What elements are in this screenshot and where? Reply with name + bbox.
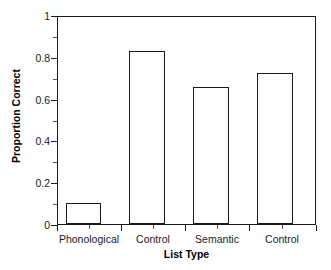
x-axis-tick-mark — [57, 225, 58, 231]
bar-control-2 — [257, 73, 293, 224]
x-axis-minor-tick-mark — [282, 225, 283, 229]
y-tick-label: 0.6 — [35, 95, 50, 106]
plot-area — [57, 16, 316, 225]
x-tick-label-control-2: Control — [232, 233, 331, 245]
x-axis-tick-mark — [121, 225, 122, 231]
y-axis-tick-labels: 1 0.8 0.6 0.4 0.2 0 — [0, 0, 50, 270]
x-axis-tick-mark — [249, 225, 250, 231]
bar-control-1 — [129, 51, 165, 224]
x-axis-minor-tick-mark — [217, 225, 218, 229]
x-axis-title: List Type — [57, 248, 316, 260]
y-tick-label: 0.8 — [35, 53, 50, 64]
y-tick-label: 0.2 — [35, 178, 50, 189]
bar-semantic — [193, 87, 229, 224]
x-axis-minor-tick-mark — [89, 225, 90, 229]
x-axis-tick-mark — [316, 225, 317, 231]
x-axis-minor-tick-mark — [153, 225, 154, 229]
y-axis-title: Proportion Correct — [10, 46, 22, 186]
y-tick-label: 0.4 — [35, 136, 50, 147]
bar-chart-figure: 1 0.8 0.6 0.4 0.2 0 Phonological Control… — [0, 0, 331, 270]
y-tick-label: 1 — [44, 11, 50, 22]
bar-phonological — [66, 203, 101, 224]
y-tick-label: 0 — [44, 220, 50, 231]
x-axis-tick-mark — [185, 225, 186, 231]
